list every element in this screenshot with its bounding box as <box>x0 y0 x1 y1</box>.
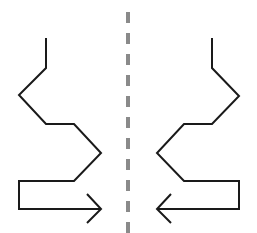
mirror-arrows-diagram <box>0 0 257 233</box>
diagram-canvas <box>0 0 257 233</box>
left-zigzag-arrow-path <box>19 38 101 209</box>
right-zigzag-arrow-path <box>157 38 239 209</box>
